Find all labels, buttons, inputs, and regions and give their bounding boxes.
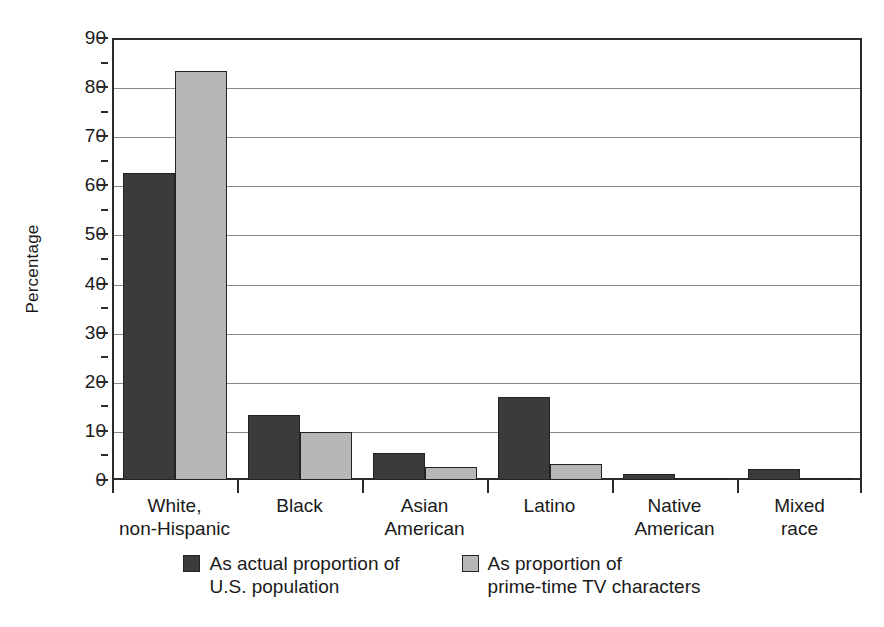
y-tick-mark-minor: [101, 209, 108, 211]
x-axis-ticks: [112, 480, 862, 494]
chart-legend: As actual proportion ofU.S. populationAs…: [0, 552, 884, 598]
y-tick-mark: [98, 430, 108, 432]
legend-label: As proportion ofprime-time TV characters: [488, 552, 701, 598]
y-tick-mark: [98, 283, 108, 285]
x-tick-mark: [237, 480, 239, 493]
x-tick-mark: [860, 480, 862, 493]
gridline: [114, 137, 860, 138]
x-category-label-line2: non-Hispanic: [112, 517, 237, 540]
legend-item: As proportion ofprime-time TV characters: [462, 552, 701, 598]
x-category-label: Black: [237, 494, 362, 517]
y-tick-mark: [98, 184, 108, 186]
y-tick-mark: [98, 37, 108, 39]
gridline: [114, 285, 860, 286]
y-tick-mark: [98, 332, 108, 334]
x-category-label-line2: American: [362, 517, 487, 540]
legend-swatch-icon: [183, 555, 200, 572]
y-tick-mark: [98, 86, 108, 88]
x-category-label-line1: Mixed: [774, 495, 825, 516]
gridline: [114, 334, 860, 335]
x-category-label: AsianAmerican: [362, 494, 487, 540]
x-category-label-line1: Latino: [524, 495, 576, 516]
y-tick-mark-minor: [101, 307, 108, 309]
y-tick-mark: [98, 233, 108, 235]
y-tick-mark-minor: [101, 160, 108, 162]
y-axis-title: Percentage: [23, 189, 43, 349]
y-tick-mark-minor: [101, 405, 108, 407]
x-tick-mark: [362, 480, 364, 493]
gridline: [114, 383, 860, 384]
legend-label-line1: As actual proportion of: [209, 553, 399, 574]
x-category-label-line1: White,: [148, 495, 202, 516]
plot-area: [112, 38, 862, 480]
x-category-label-line1: Native: [648, 495, 702, 516]
x-tick-mark: [487, 480, 489, 493]
legend-item: As actual proportion ofU.S. population: [183, 552, 399, 598]
gridline: [114, 88, 860, 89]
y-tick-mark-minor: [101, 356, 108, 358]
x-category-label: Latino: [487, 494, 612, 517]
legend-label: As actual proportion ofU.S. population: [209, 552, 399, 598]
y-tick-mark: [98, 479, 108, 481]
x-category-label-line2: American: [612, 517, 737, 540]
y-tick-mark: [98, 381, 108, 383]
y-tick-mark-minor: [101, 62, 108, 64]
gridline: [114, 186, 860, 187]
x-category-label-line1: Black: [276, 495, 322, 516]
y-tick-mark: [98, 135, 108, 137]
legend-label-line2: U.S. population: [209, 575, 399, 598]
y-tick-mark-minor: [101, 111, 108, 113]
gridline: [114, 432, 860, 433]
x-category-label: Mixedrace: [737, 494, 862, 540]
x-tick-mark: [737, 480, 739, 493]
bar-chart: Percentage 0102030405060708090 White,non…: [0, 0, 884, 627]
y-axis-tick-labels: 0102030405060708090: [48, 38, 106, 480]
x-category-label-line2: race: [737, 517, 862, 540]
x-axis-category-labels: White,non-HispanicBlackAsianAmericanLati…: [112, 494, 862, 546]
x-category-label-line1: Asian: [401, 495, 449, 516]
legend-label-line1: As proportion of: [488, 553, 622, 574]
y-tick-mark-minor: [101, 258, 108, 260]
y-tick-mark-minor: [101, 454, 108, 456]
x-tick-mark: [112, 480, 114, 493]
legend-swatch-icon: [462, 555, 479, 572]
gridline: [114, 235, 860, 236]
x-tick-mark: [612, 480, 614, 493]
legend-label-line2: prime-time TV characters: [488, 575, 701, 598]
x-category-label: NativeAmerican: [612, 494, 737, 540]
x-category-label: White,non-Hispanic: [112, 494, 237, 540]
